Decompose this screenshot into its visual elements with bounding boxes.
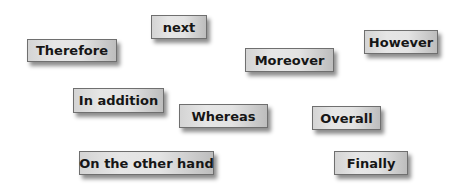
card-in-addition[interactable]: In addition	[73, 88, 164, 113]
card-finally[interactable]: Finally	[334, 151, 408, 175]
card-on-the-other-hand[interactable]: On the other hand	[79, 151, 214, 175]
word-card-board: Therefore next Moreover However In addit…	[0, 0, 465, 187]
card-whereas[interactable]: Whereas	[179, 104, 268, 128]
card-therefore[interactable]: Therefore	[27, 39, 117, 62]
card-label: Finally	[347, 156, 396, 171]
card-however[interactable]: However	[364, 30, 438, 54]
card-next[interactable]: next	[151, 15, 207, 39]
card-label: next	[163, 20, 196, 35]
card-label: Therefore	[36, 43, 108, 58]
card-label: Moreover	[255, 53, 325, 68]
card-label: In addition	[79, 93, 158, 108]
card-label: Overall	[320, 111, 372, 126]
card-moreover[interactable]: Moreover	[245, 48, 334, 72]
card-label: Whereas	[191, 109, 255, 124]
card-label: However	[369, 35, 433, 50]
card-overall[interactable]: Overall	[312, 106, 381, 130]
card-label: On the other hand	[79, 156, 213, 171]
